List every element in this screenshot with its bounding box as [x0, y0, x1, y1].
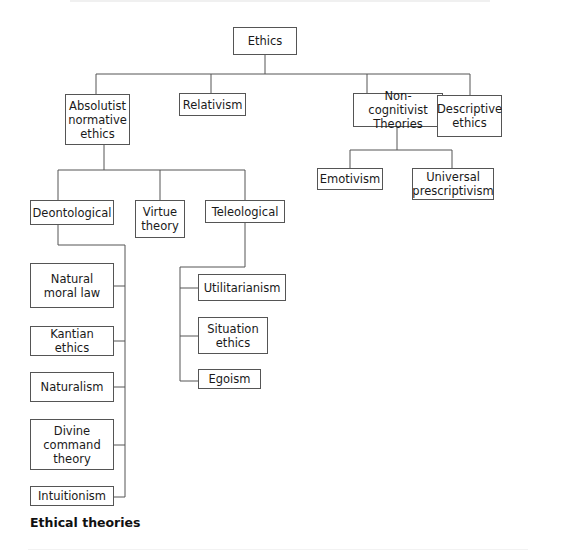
node-natural-moral-law: Natural moral law	[30, 263, 114, 308]
node-utilitarianism: Utilitarianism	[198, 274, 286, 301]
node-kantian-ethics: Kantian ethics	[30, 326, 114, 356]
node-absolutist-normative-ethics: Absolutist normative ethics	[65, 94, 130, 145]
node-egoism: Egoism	[198, 369, 261, 389]
node-non-cognitivist-theories: Non-cognitivist Theories	[353, 93, 443, 127]
node-emotivism: Emotivism	[317, 168, 383, 190]
node-situation-ethics: Situation ethics	[198, 317, 268, 354]
node-teleological: Teleological	[205, 200, 285, 223]
node-universal-prescriptivism: Universal prescriptivism	[412, 168, 494, 200]
node-virtue-theory: Virtue theory	[135, 200, 185, 238]
node-relativism: Relativism	[179, 93, 246, 116]
node-ethics: Ethics	[233, 27, 297, 55]
node-descriptive-ethics: Descriptive ethics	[437, 95, 502, 137]
node-intuitionism: Intuitionism	[30, 486, 114, 506]
node-naturalism: Naturalism	[30, 372, 114, 402]
node-divine-command-theory: Divine command theory	[30, 419, 114, 470]
figure-caption: Ethical theories	[30, 515, 141, 530]
bottom-border	[28, 549, 528, 550]
node-deontological: Deontological	[30, 200, 114, 225]
